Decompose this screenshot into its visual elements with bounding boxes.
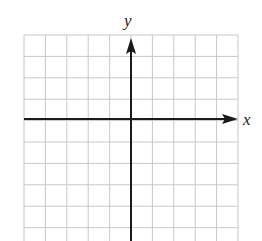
x-axis-label: x [242,110,251,129]
y-axis [126,38,136,241]
coordinate-plane: x y [0,0,262,241]
y-axis-label: y [122,11,132,30]
